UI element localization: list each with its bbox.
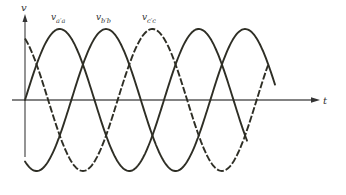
svg-text:vb′b: vb′b xyxy=(96,12,111,25)
x-axis-arrow-icon xyxy=(311,97,320,102)
three-phase-voltage-diagram: v t va′a vb′b vc′c xyxy=(0,0,346,195)
x-axis-label: t xyxy=(323,95,328,106)
y-axis-arrow-icon xyxy=(23,14,28,22)
y-axis-label: v xyxy=(21,2,27,13)
label-v-bb: vb′b xyxy=(96,12,111,25)
label-v-cc: vc′c xyxy=(142,12,156,25)
svg-text:va′a: va′a xyxy=(51,12,65,25)
svg-text:vc′c: vc′c xyxy=(142,12,156,25)
label-v-aa: va′a xyxy=(51,12,65,25)
